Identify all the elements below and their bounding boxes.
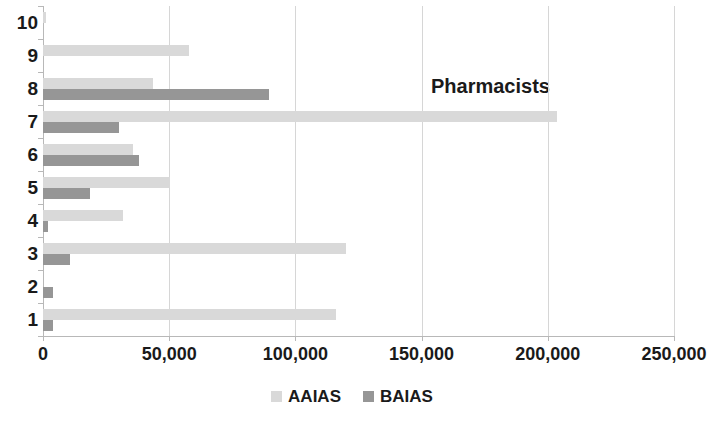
bar-group xyxy=(43,72,674,105)
bar-group xyxy=(43,138,674,171)
x-axis-tick xyxy=(169,336,170,341)
bar-baias-3 xyxy=(43,254,70,265)
bar-group xyxy=(43,39,674,72)
legend-item-baias[interactable]: BAIAS xyxy=(363,388,433,405)
bar-baias-5 xyxy=(43,188,90,199)
legend-label: AAIAS xyxy=(288,388,341,405)
bar-aaias-6 xyxy=(43,144,133,155)
bar-baias-1 xyxy=(43,320,53,331)
bar-baias-6 xyxy=(43,155,139,166)
bar-aaias-5 xyxy=(43,177,170,188)
x-axis-tick xyxy=(548,336,549,341)
y-axis-label-9: 9 xyxy=(4,46,38,65)
gridline xyxy=(674,6,675,336)
bar-group xyxy=(43,237,674,270)
y-axis-label-8: 8 xyxy=(4,79,38,98)
bar-group xyxy=(43,6,674,39)
x-axis-line xyxy=(43,336,675,337)
bar-group xyxy=(43,171,674,204)
legend-item-aaias[interactable]: AAIAS xyxy=(271,388,341,405)
x-axis-label-0: 0 xyxy=(38,345,48,363)
x-axis-tick xyxy=(674,336,675,341)
bar-aaias-8 xyxy=(43,78,153,89)
x-axis-label-3: 150,000 xyxy=(389,345,454,363)
x-axis-tick xyxy=(43,336,44,341)
x-axis-label-4: 200,000 xyxy=(515,345,580,363)
bar-baias-8 xyxy=(43,89,269,100)
plot-area xyxy=(43,6,674,336)
y-axis-label-10: 10 xyxy=(4,13,38,32)
x-axis-labels: 050,000100,000150,000200,000250,000 xyxy=(0,345,704,371)
bar-baias-2 xyxy=(43,287,53,298)
chart-legend: AAIASBAIAS xyxy=(0,388,704,405)
bar-baias-7 xyxy=(43,122,119,133)
x-axis-tick xyxy=(295,336,296,341)
x-axis-label-2: 100,000 xyxy=(263,345,328,363)
bar-aaias-10 xyxy=(43,12,46,23)
bar-aaias-4 xyxy=(43,210,123,221)
y-axis-label-4: 4 xyxy=(4,211,38,230)
y-axis-label-7: 7 xyxy=(4,112,38,131)
legend-swatch-icon xyxy=(271,391,282,402)
bar-group xyxy=(43,270,674,303)
bar-baias-4 xyxy=(43,221,48,232)
bar-group xyxy=(43,204,674,237)
bar-aaias-7 xyxy=(43,111,557,122)
bar-group xyxy=(43,303,674,336)
legend-swatch-icon xyxy=(363,391,374,402)
y-axis-label-3: 3 xyxy=(4,244,38,263)
x-axis-label-1: 50,000 xyxy=(142,345,197,363)
y-axis-label-5: 5 xyxy=(4,178,38,197)
y-axis-labels: 12345678910 xyxy=(0,6,38,336)
y-axis-label-6: 6 xyxy=(4,145,38,164)
bar-group xyxy=(43,105,674,138)
x-axis-tick xyxy=(422,336,423,341)
y-axis-label-1: 1 xyxy=(4,310,38,329)
bar-aaias-3 xyxy=(43,243,346,254)
bar-aaias-9 xyxy=(43,45,189,56)
bar-aaias-1 xyxy=(43,309,336,320)
legend-label: BAIAS xyxy=(380,388,433,405)
x-axis-label-5: 250,000 xyxy=(641,345,706,363)
y-axis-label-2: 2 xyxy=(4,277,38,296)
